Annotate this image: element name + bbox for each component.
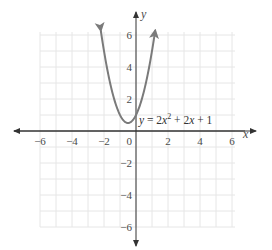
x-tick-label: 6 xyxy=(229,135,235,147)
y-axis-label: y xyxy=(140,7,147,21)
y-tick-label: 4 xyxy=(127,61,133,73)
equation-label: y = 2x2 + 2x + 1 xyxy=(138,112,213,127)
x-axis-label: x xyxy=(242,127,249,141)
origin-label: 0 xyxy=(127,135,133,147)
x-tick-label: 2 xyxy=(165,135,171,147)
x-tick-label: −4 xyxy=(66,135,78,147)
y-tick-label: −6 xyxy=(120,221,132,233)
y-tick-label: −2 xyxy=(120,157,132,169)
x-tick-label: −6 xyxy=(34,135,46,147)
y-tick-label: 2 xyxy=(127,93,133,105)
parabola-curve xyxy=(101,31,155,123)
x-tick-label: −2 xyxy=(98,135,110,147)
y-tick-label: 6 xyxy=(127,29,133,41)
x-tick-label: 4 xyxy=(197,135,203,147)
grid-lines xyxy=(40,32,235,227)
parabola-chart: −6−4−2246642−2−4−60 x y y = 2x2 + 2x + 1 xyxy=(0,0,272,250)
y-tick-label: −4 xyxy=(120,189,132,201)
